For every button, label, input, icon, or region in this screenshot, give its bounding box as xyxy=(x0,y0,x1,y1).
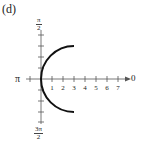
tick-label: 3 xyxy=(72,84,76,92)
angle-label-3pi-over-2: 3π 2 xyxy=(34,126,43,141)
polar-graph xyxy=(0,0,142,143)
angle-label-zero: 0 xyxy=(131,74,136,83)
fraction-denominator: 2 xyxy=(36,25,42,32)
tick-label: 2 xyxy=(61,84,65,92)
angle-label-pi: π xyxy=(15,74,20,84)
tick-label: 7 xyxy=(116,84,120,92)
tick-label: 4 xyxy=(83,84,87,92)
tick-label: 5 xyxy=(94,84,98,92)
tick-label: 6 xyxy=(105,84,109,92)
fraction-denominator: 2 xyxy=(34,134,43,141)
tick-label: 1 xyxy=(50,84,54,92)
angle-label-pi-over-2: π 2 xyxy=(36,17,42,32)
